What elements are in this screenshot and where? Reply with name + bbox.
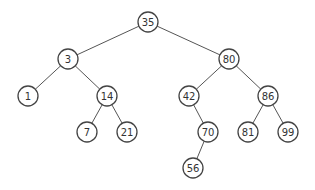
tree-node-42: 42: [179, 86, 199, 106]
node-label: 14: [101, 91, 114, 102]
node-label: 81: [242, 127, 255, 138]
edge-35-3: [77, 26, 139, 55]
tree-nodes: 35380114428672170819956: [18, 12, 298, 178]
edge-14-7: [92, 105, 102, 124]
node-label: 56: [187, 163, 200, 174]
edge-80-42: [196, 66, 221, 89]
node-label: 86: [262, 91, 275, 102]
edge-3-1: [35, 66, 60, 89]
tree-node-1: 1: [18, 86, 38, 106]
node-label: 7: [84, 127, 90, 138]
tree-node-35: 35: [138, 12, 158, 32]
tree-node-3: 3: [58, 49, 78, 69]
tree-node-80: 80: [219, 49, 239, 69]
node-label: 80: [223, 54, 236, 65]
tree-node-7: 7: [77, 122, 97, 142]
edge-86-99: [273, 105, 283, 124]
tree-node-86: 86: [258, 86, 278, 106]
tree-node-70: 70: [198, 122, 218, 142]
edge-42-70: [194, 105, 204, 123]
edge-14-21: [112, 105, 122, 124]
node-label: 3: [65, 54, 71, 65]
node-label: 21: [121, 127, 134, 138]
edge-35-80: [157, 26, 220, 55]
node-label: 35: [142, 17, 155, 28]
node-label: 42: [183, 91, 196, 102]
node-label: 1: [25, 91, 31, 102]
tree-node-21: 21: [117, 122, 137, 142]
tree-node-81: 81: [238, 122, 258, 142]
edge-80-86: [236, 66, 260, 89]
edge-3-14: [75, 66, 99, 89]
edge-70-56: [197, 141, 204, 159]
tree-node-56: 56: [183, 158, 203, 178]
node-label: 99: [282, 127, 295, 138]
edge-86-81: [253, 105, 263, 124]
tree-node-14: 14: [97, 86, 117, 106]
node-label: 70: [202, 127, 215, 138]
bst-diagram: 35380114428672170819956: [0, 0, 315, 190]
tree-node-99: 99: [278, 122, 298, 142]
